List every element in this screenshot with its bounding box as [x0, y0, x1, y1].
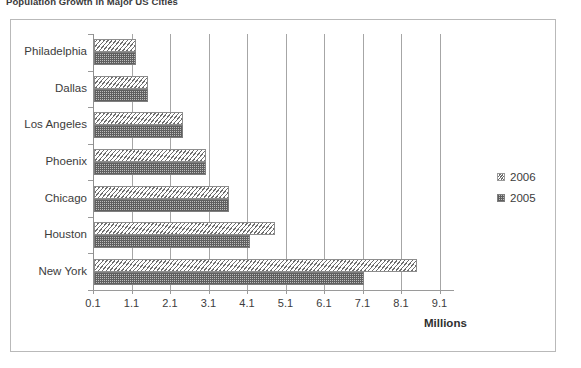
- bar-2006-chicago: [94, 186, 229, 199]
- bar-2006-philadelphia: [94, 39, 136, 52]
- x-tick-label: 3.1: [194, 297, 224, 309]
- x-tick-label: 4.1: [232, 297, 262, 309]
- bar-2005-chicago: [94, 199, 229, 212]
- x-tick-mark: [401, 290, 402, 294]
- legend-item-2006[interactable]: 2006: [497, 168, 536, 185]
- bar-2005-los-angeles: [94, 125, 183, 138]
- x-tick-mark: [440, 290, 441, 294]
- x-axis-title: Millions: [424, 317, 467, 329]
- y-tick-mark: [88, 290, 93, 291]
- x-tick-mark: [93, 290, 94, 294]
- x-tick-mark: [324, 290, 325, 294]
- category-labels: PhiladelphiaDallasLos AngelesPhoenixChic…: [0, 34, 87, 290]
- x-axis-line: [93, 290, 454, 291]
- legend-label: 2006: [510, 171, 536, 183]
- bar-2006-dallas: [94, 76, 148, 89]
- legend-item-2005[interactable]: 2005: [497, 189, 536, 206]
- x-tick-mark: [132, 290, 133, 294]
- bar-2005-phoenix: [94, 162, 206, 175]
- chart-title: Population Growth in Major US Cities: [6, 0, 178, 7]
- bar-2006-houston: [94, 222, 275, 235]
- bar-2006-los-angeles: [94, 112, 183, 125]
- x-tick-label: 1.1: [117, 297, 147, 309]
- bar-2005-dallas: [94, 89, 148, 102]
- bar-2005-new-york: [94, 272, 364, 285]
- bar-2006-phoenix: [94, 149, 206, 162]
- x-tick-mark: [363, 290, 364, 294]
- category-label: Philadelphia: [3, 45, 87, 57]
- x-tick-label: 9.1: [425, 297, 455, 309]
- category-label: Houston: [3, 228, 87, 240]
- bar-2006-new-york: [94, 259, 417, 272]
- plot-area: [93, 34, 440, 290]
- legend-label: 2005: [510, 192, 536, 204]
- x-tick-mark: [209, 290, 210, 294]
- category-label: Phoenix: [3, 155, 87, 167]
- category-label: New York: [3, 265, 87, 277]
- x-tick-label: 8.1: [386, 297, 416, 309]
- x-tick-label: 0.1: [78, 297, 108, 309]
- x-tick-mark: [247, 290, 248, 294]
- category-label: Dallas: [3, 82, 87, 94]
- x-tick-label: 6.1: [309, 297, 339, 309]
- x-tick-label: 2.1: [155, 297, 185, 309]
- checker-fill-swatch: [497, 194, 505, 202]
- bar-2005-philadelphia: [94, 52, 136, 65]
- category-label: Los Angeles: [3, 118, 87, 130]
- bar-2005-houston: [94, 235, 250, 248]
- x-tick-label: 7.1: [348, 297, 378, 309]
- x-tick-mark: [170, 290, 171, 294]
- x-tick-mark: [286, 290, 287, 294]
- x-tick-label: 5.1: [271, 297, 301, 309]
- chart-legend: 20062005: [497, 168, 536, 210]
- diagonal-hatch-swatch: [497, 173, 505, 181]
- category-label: Chicago: [3, 192, 87, 204]
